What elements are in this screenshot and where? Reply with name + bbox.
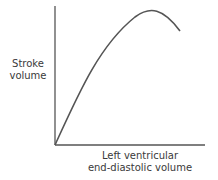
y-axis-label: Stroke volume xyxy=(6,58,50,82)
x-axis-label-line-2: end-diastolic volume xyxy=(70,162,210,174)
x-axis-label-line-1: Left ventricular xyxy=(70,150,210,162)
y-axis-label-line-1: Stroke xyxy=(6,58,50,70)
stroke-volume-curve xyxy=(55,11,180,145)
y-axis-label-line-2: volume xyxy=(6,70,50,82)
x-axis-label: Left ventricular end-diastolic volume xyxy=(70,150,210,174)
